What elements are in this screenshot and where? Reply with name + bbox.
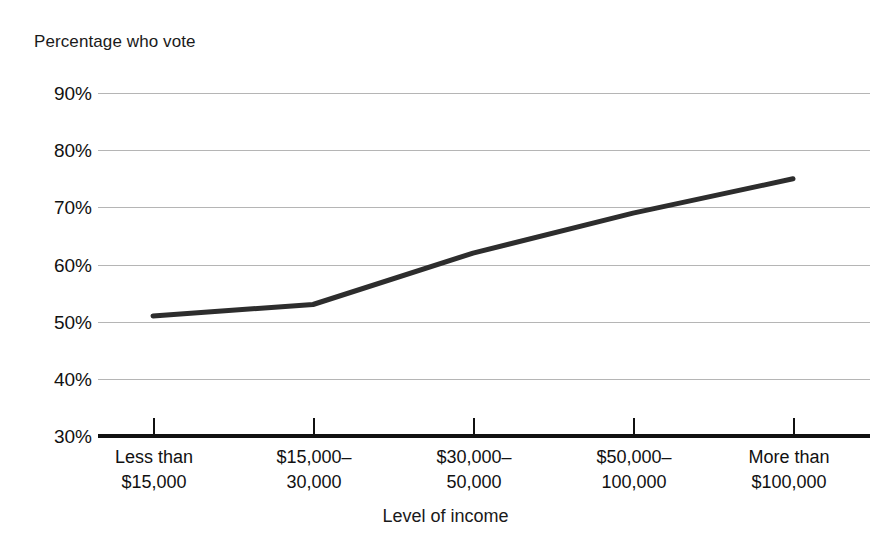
series-line-percentage-who-vote [153, 179, 793, 316]
x-axis-title: Level of income [0, 505, 891, 527]
line-chart: Percentage who vote 90% 80% 70% 60% 50% … [0, 0, 891, 549]
data-series-layer [0, 0, 891, 549]
